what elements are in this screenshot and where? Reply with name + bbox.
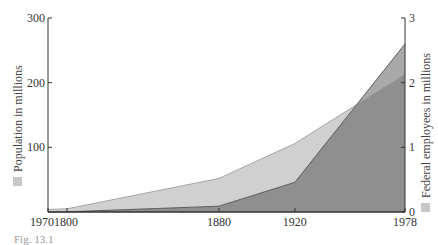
x-tick-label: 1920 <box>283 215 307 229</box>
x-tick-label: 1800 <box>54 215 78 229</box>
left-axis-label: Population in millions <box>11 65 25 172</box>
right-axis-label: Federal employees in millions <box>419 53 433 198</box>
right-tick-label: 3 <box>409 11 415 25</box>
left-tick-label: 100 <box>27 140 45 154</box>
right-tick-label: 2 <box>409 76 415 90</box>
left-tick-label: 200 <box>27 76 45 90</box>
figure-caption: Fig. 13.1 <box>14 233 53 245</box>
plot-area <box>48 44 405 212</box>
right-tick-label: 1 <box>409 140 415 154</box>
x-tick-label: 1970 <box>30 215 54 229</box>
left-tick-label: 300 <box>27 11 45 25</box>
right-axis-title: Federal employees in millions <box>419 53 433 212</box>
left-axis-title: Population in millions <box>11 65 25 186</box>
x-tick-label: 1978 <box>393 215 417 229</box>
population-legend-swatch <box>13 177 22 186</box>
federal-employees-legend-swatch <box>421 203 430 212</box>
x-tick-label: 1880 <box>207 215 231 229</box>
